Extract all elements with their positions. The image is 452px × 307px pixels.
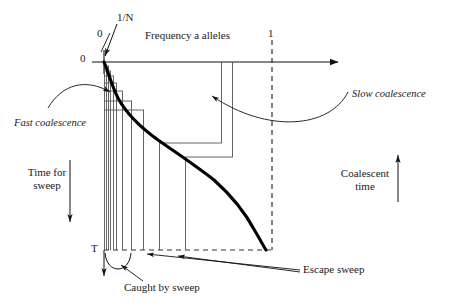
coalescent-time-label-line1: Coalescent <box>336 168 394 180</box>
fast-coalescence-pointer <box>48 85 110 108</box>
time-for-sweep-label-line1: Time for <box>22 167 72 179</box>
origin-annotation-value-label: 0 <box>97 28 103 40</box>
x-axis-title: Frequency a alleles <box>145 30 230 42</box>
coalescent-time-label-line2: time <box>336 181 394 193</box>
y-origin-label: 0 <box>80 53 86 65</box>
time-for-sweep-label-line2: sweep <box>22 180 72 192</box>
genealogy-tree <box>104 62 233 250</box>
one-over-N-pointer <box>101 24 117 56</box>
caught-by-sweep-pointer <box>121 265 143 281</box>
one-over-N-label: 1/N <box>117 12 134 24</box>
escape-sweep-label: Escape sweep <box>303 264 364 276</box>
figure-canvas <box>0 0 452 307</box>
selective-sweep-genealogy-figure: Frequency a alleles 1/N 0 0 1 T Fast coa… <box>0 0 452 307</box>
slow-coalescence-label: Slow coalescence <box>352 88 426 99</box>
caught-by-sweep-label: Caught by sweep <box>124 282 200 294</box>
axis-group <box>92 40 338 250</box>
sweep-trajectory-curve <box>104 62 266 250</box>
escape-sweep-pointer-lower <box>178 256 300 272</box>
caught-by-sweep-brace <box>105 253 131 269</box>
x-tick-right-label: 1 <box>268 28 274 40</box>
fast-coalescence-label: Fast coalescence <box>14 117 86 128</box>
y-bottom-label: T <box>91 243 98 255</box>
